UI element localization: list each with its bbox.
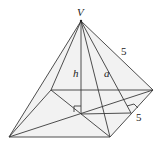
label-slant-height: a (104, 67, 110, 79)
label-base-edge: 5 (136, 111, 142, 123)
label-height: h (73, 67, 79, 79)
label-lateral-edge: 5 (121, 45, 127, 57)
apex-point (80, 20, 82, 22)
pyramid-diagram: V h a 5 5 (0, 0, 164, 148)
label-apex: V (77, 6, 85, 18)
